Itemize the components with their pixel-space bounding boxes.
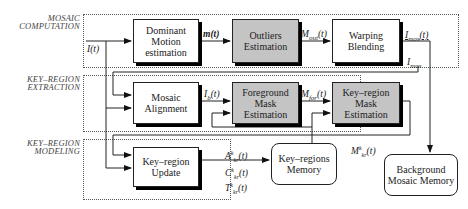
signal-t-kr: Tkkr(t) xyxy=(225,180,247,197)
signal-i-b: Ib(t) xyxy=(204,89,220,103)
outliers-estimation-block: Outliers Estimation xyxy=(232,19,299,63)
signal-m-kr: Mkkr(t) xyxy=(351,143,376,160)
signal-motion: m(t) xyxy=(203,29,219,39)
signal-m-for: Mfor(t) xyxy=(301,89,326,103)
signal-m-out: Mout(t) xyxy=(301,29,327,43)
signal-input: I(t) xyxy=(87,44,99,54)
block-diagram: MOSAIC COMPUTATION KEY–REGION EXTRACTION… xyxy=(0,0,468,209)
signal-i-mos-t: Imos(t) xyxy=(405,30,428,44)
mosaic-alignment-block: Mosaic Alignment xyxy=(133,82,199,124)
foreground-mask-block: Foreground Mask Estimation xyxy=(232,82,299,124)
dominant-motion-block: Dominant Motion estimation xyxy=(133,19,199,63)
keyregion-mask-block: Key–region Mask Estimation xyxy=(332,82,400,124)
signal-i-mos: Imos xyxy=(407,57,421,71)
keyregions-memory-block: Key–regions Memory xyxy=(271,143,337,185)
signal-a-kr: Akkr(t) xyxy=(225,148,247,165)
background-mosaic-memory-block: Background Mosaic Memory xyxy=(384,154,458,196)
keyregion-update-block: Key–region Update xyxy=(133,147,199,187)
warping-blending-block: Warping Blending xyxy=(332,19,400,63)
